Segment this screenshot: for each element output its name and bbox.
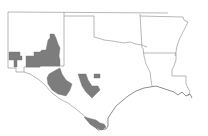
highlighted-regions [9, 34, 106, 130]
map [0, 0, 208, 136]
region-small-central-texas [94, 74, 100, 78]
region-southern-new-mexico-east [26, 34, 60, 67]
louisiana-border [172, 53, 190, 96]
oklahoma-border [64, 16, 147, 47]
arkansas-border [140, 16, 188, 56]
texas-louisiana-border [143, 48, 152, 86]
northern-border [8, 12, 168, 13]
region-southern-new-mexico-west [9, 52, 22, 67]
gulf-coast [96, 86, 192, 130]
region-lower-rio-grande-valley [84, 117, 106, 130]
oklahoma-arkansas-border [140, 14, 142, 48]
